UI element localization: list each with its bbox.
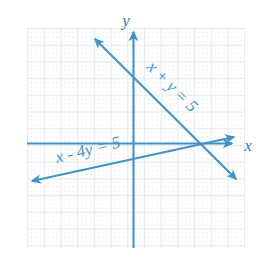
y-axis-label: y: [120, 11, 130, 30]
grid: [27, 28, 245, 248]
x-axis-label: x: [243, 136, 252, 155]
coordinate-graph-figure: y x x + y = 5 x - 4y = 5: [0, 0, 267, 270]
